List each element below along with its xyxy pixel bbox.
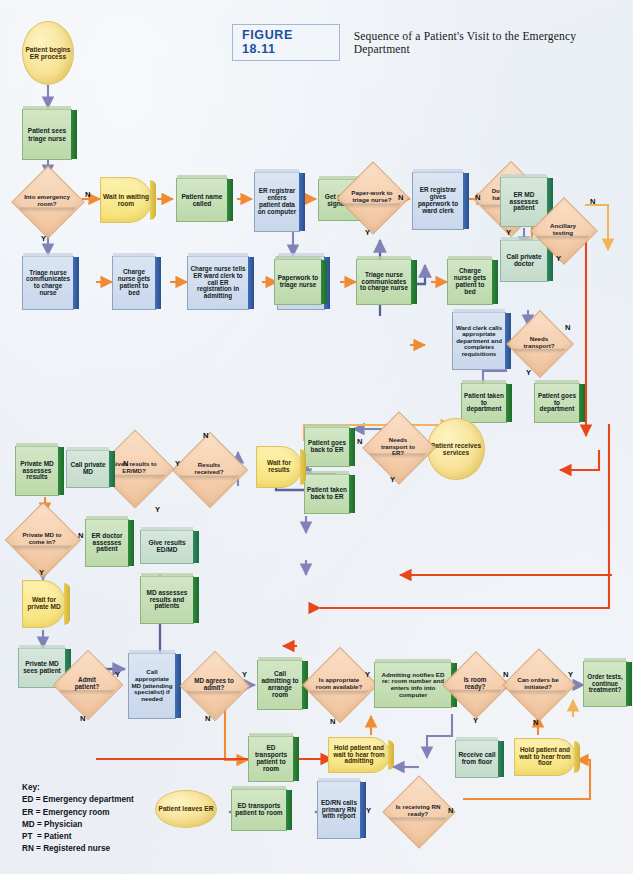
node-appropriate-room-decision[interactable]: Is appropriate room available? (313, 658, 365, 710)
node-into-er-decision[interactable]: Into emergency room? (22, 176, 72, 226)
edge-label-private-md-n: N (475, 193, 480, 202)
node-triage-communicates[interactable]: Triage nurse communicates to charge nurs… (22, 256, 74, 310)
node-needs-transport-to-er-decision[interactable]: Needs transport to ER? (373, 422, 423, 472)
node-call-private-md[interactable]: Call private MD (66, 450, 110, 488)
edge-label-results-received-n: N (203, 431, 208, 440)
edge-label-private-md-y: Y (506, 228, 511, 237)
edge-label-orders-y: Y (568, 670, 573, 679)
edge-label-into-er-n: N (85, 190, 90, 199)
node-triage-nurse[interactable]: Patient sees triage nurse (22, 109, 72, 160)
edge-label-md-agrees-n: N (205, 714, 210, 723)
edge-label-gives-results-n: N (123, 459, 128, 468)
node-patient-name-called[interactable]: Patient name called (176, 178, 228, 222)
flowchart-canvas: FIGURE 18.11 Sequence of a Patient's Vis… (0, 0, 633, 874)
edge-label-transport-er-y: Y (390, 475, 395, 484)
node-paperwork-triage-decision[interactable]: Paper-work to triage nurse? (347, 172, 397, 222)
node-registrar-gives-paperwork[interactable]: ER registrar gives paperwork to ward cle… (412, 172, 464, 230)
node-md-assesses-results-patients[interactable]: MD assesses results and patients (140, 576, 194, 624)
node-patient-taken-to-department[interactable]: Patient taken to department (461, 383, 507, 423)
node-hold-patient-admitting[interactable]: Hold patient and wait to hear from admit… (328, 737, 390, 773)
edge-label-ancillary-n: N (590, 197, 595, 206)
edge-label-rn-ready-y: Y (366, 806, 371, 815)
figure-header: FIGURE 18.11 Sequence of a Patient's Vis… (232, 24, 633, 61)
legend-key: Key: ED = Emergency department ER = Emer… (22, 782, 134, 856)
node-ancillary-testing-decision[interactable]: Ancillary testing (540, 207, 586, 253)
node-wait-for-private-md[interactable]: Wait for private MD (22, 580, 66, 628)
node-patient-receives-services[interactable]: Patient receives services (427, 418, 485, 480)
node-admitting-notifies-ed[interactable]: Admitting notifies ED re: room number an… (374, 662, 452, 708)
node-triage-communicates-charge[interactable]: Triage nurse communicates to charge nurs… (356, 259, 412, 305)
node-wait-for-results[interactable]: Wait for results (256, 446, 302, 488)
edge-label-transport-y: Y (526, 368, 531, 377)
figure-badge: FIGURE 18.11 (232, 24, 340, 61)
edge-label-md-come-in-y: Y (39, 568, 44, 577)
figure-page: FIGURE 18.11 Sequence of a Patient's Vis… (0, 0, 633, 874)
node-results-received-decision[interactable]: Results received? (183, 443, 235, 495)
node-ward-clerk-calls-dept[interactable]: Ward clerk calls appropriate department … (452, 312, 506, 370)
node-patient-goes-back-to-er[interactable]: Patient goes back to ER (304, 427, 350, 467)
node-ed-transports-patient-room-2[interactable]: ED transports patient to room (231, 789, 287, 831)
node-ed-rn-calls-primary-rn[interactable]: ED/RN calls primary RN with report (317, 781, 361, 839)
node-patient-leaves-er[interactable]: Patient leaves ER (155, 790, 217, 828)
legend-line-ed: ED = Emergency department (22, 794, 134, 806)
node-call-appropriate-md[interactable]: Call appropriate MD (attending specialis… (128, 653, 176, 719)
node-call-admitting-arrange-room[interactable]: Call admitting to arrange room (257, 660, 303, 710)
edge-label-transport-n: N (565, 323, 570, 332)
node-is-room-ready-decision[interactable]: Is room ready? (452, 661, 498, 707)
node-patient-goes-to-department[interactable]: Patient goes to department (534, 383, 580, 423)
edge-label-results-received-y: Y (175, 459, 180, 468)
node-charge-nurse-gets-patient-bed[interactable]: Charge nurse gets patient to bed (447, 259, 493, 305)
node-hold-patient-floor[interactable]: Hold patient and wait to hear from floor (514, 738, 576, 776)
node-wait-waiting-room[interactable]: Wait in waiting room (100, 177, 152, 223)
node-patient-taken-back-to-er[interactable]: Patient taken back to ER (304, 474, 350, 514)
node-charge-nurse-tells-ward-clerk[interactable]: Charge nurse tells ER ward clerk to call… (187, 256, 249, 310)
edge-label-into-er-y: Y (41, 234, 46, 243)
edge-label-room-ready-y: Y (473, 716, 478, 725)
node-ed-transports-patient-to-room[interactable]: ED transports patient to room (248, 736, 294, 782)
node-er-registrar-enters-data[interactable]: ER registrar enters patient data on comp… (254, 172, 300, 232)
node-receive-call-from-floor[interactable]: Receive call from floor (455, 740, 499, 778)
edge-label-transport-er-n: N (357, 437, 362, 446)
node-receiving-rn-ready-decision[interactable]: Is receiving RN ready? (393, 786, 443, 836)
legend-line-md: MD = Physician (22, 819, 134, 831)
node-start[interactable]: Patient begins ER process (22, 21, 74, 85)
node-charge-nurse-bed[interactable]: Charge nurse gets patient to bed (112, 256, 156, 310)
node-give-results-ed-md[interactable]: Give results ED/MD (140, 530, 194, 564)
node-md-agrees-decision[interactable]: MD agrees to admit? (190, 661, 238, 709)
edge-label-ancillary-y: Y (556, 254, 561, 263)
edge-label-orders-n: N (533, 718, 538, 727)
node-paperwork-to-triage-nurse[interactable]: Paperwork to triage nurse (274, 259, 322, 305)
legend-line-er: ER = Emergency room (22, 807, 134, 819)
edge-label-admit-n: N (80, 714, 85, 723)
node-private-md-assesses-results[interactable]: Private MD assesses results (15, 446, 59, 496)
node-gives-results-decision[interactable]: Gives results to ER/MD? (107, 441, 161, 495)
figure-title: Sequence of a Patient's Visit to the Eme… (354, 30, 633, 56)
legend-line-rn: RN = Registered nurse (22, 843, 134, 855)
edge-label-gives-results-y: Y (155, 505, 160, 514)
edge-label-paperwork-y: Y (365, 228, 370, 237)
edge-label-paperwork-n: N (398, 193, 403, 202)
legend-heading: Key: (22, 782, 134, 794)
edge-label-rn-ready-n: N (448, 806, 453, 815)
node-needs-transport-decision[interactable]: Needs transport? (516, 320, 562, 366)
edge-label-admit-y: Y (115, 670, 120, 679)
edge-label-md-come-in-n: N (78, 531, 83, 540)
edge-label-room-ready-n: N (503, 670, 508, 679)
edge-label-room-available-n: N (330, 717, 335, 726)
node-private-md-come-in-decision[interactable]: Private MD to come in? (16, 513, 68, 565)
node-orders-initiated-decision[interactable]: Can orders be initiated? (513, 659, 563, 709)
node-order-tests-continue[interactable]: Order tests, continue treatment? (583, 661, 627, 707)
edge-label-room-available-y: Y (365, 670, 370, 679)
edge-label-md-agrees-y: Y (242, 670, 247, 679)
legend-line-pt: PT = Patient (22, 831, 134, 843)
node-admit-patient-decision[interactable]: Admit patient? (63, 660, 111, 708)
node-er-doctor-assesses-patient[interactable]: ER doctor assesses patient (85, 519, 129, 567)
